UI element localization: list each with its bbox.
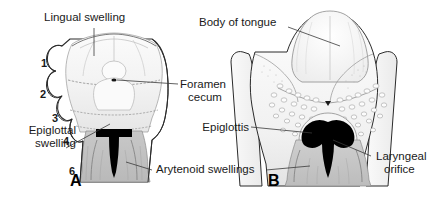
arch-number-3: 3 [52,112,58,124]
arch-number-4: 4 [63,135,69,147]
panel-a-copula [94,78,135,110]
label-foramen-cecum-line2: cecum [188,91,222,104]
panel-a-foramen-cecum-dot [111,79,116,82]
arch-number-2: 2 [40,88,46,100]
label-laryngeal-orifice-line1: Laryngeal [376,150,427,163]
label-laryngeal-orifice-line2: orifice [384,163,415,176]
panel-letter-a: A [70,172,82,190]
arch-number-1: 1 [41,57,47,69]
label-epiglottis: Epiglottis [185,121,249,134]
label-arytenoid-swellings: Arytenoid swellings [156,163,254,176]
panel-a-drawing [46,28,178,182]
label-body-of-tongue: Body of tongue [199,16,276,29]
anatomical-figure: Lingual swelling Epiglottal swelling For… [0,0,444,202]
label-foramen-cecum-line1: Foramen [180,78,226,91]
panel-letter-b: B [268,172,280,190]
panel-b-drawing [231,11,397,186]
label-lingual-swelling: Lingual swelling [44,11,125,24]
